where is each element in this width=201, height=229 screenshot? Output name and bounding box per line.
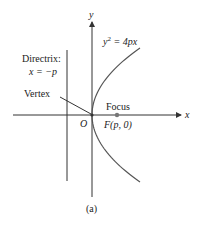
- parabola-equation: y2 = 4px: [102, 35, 138, 47]
- focus-coordinate: F(p, 0): [103, 119, 132, 131]
- directrix-title: Directrix:: [22, 53, 61, 64]
- vertex-label: Vertex: [24, 88, 50, 99]
- focus-label: Focus: [106, 101, 130, 112]
- x-axis-label: x: [184, 109, 190, 120]
- figure-caption: (a): [86, 203, 97, 215]
- origin-label: O: [80, 118, 87, 129]
- vertex-pointer: [60, 97, 91, 114]
- directrix-equation: x = −p: [28, 66, 57, 77]
- parabola-diagram: x y Directrix: x = −p y2 = 4px Vertex O …: [0, 0, 201, 229]
- focus-point: [115, 113, 119, 117]
- vertex-point: [90, 113, 93, 116]
- y-axis-label: y: [88, 9, 94, 20]
